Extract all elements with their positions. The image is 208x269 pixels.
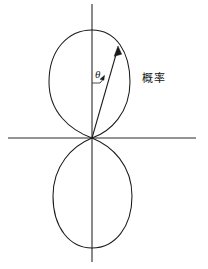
figure-background (0, 0, 208, 269)
dipole-pattern-svg (0, 0, 208, 269)
figure-container: θ 概率 (0, 0, 208, 269)
